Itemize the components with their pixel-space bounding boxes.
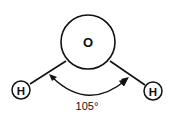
bond-angle-arc xyxy=(52,77,126,95)
water-molecule-diagram: O H H 105° xyxy=(0,0,173,116)
oxygen-label: O xyxy=(83,35,93,50)
bond-o-h-left xyxy=(30,61,66,84)
oxygen-atom: O xyxy=(61,15,115,69)
hydrogen-atom-left: H xyxy=(12,81,30,99)
hydrogen-left-label: H xyxy=(17,85,25,97)
hydrogen-right-label: H xyxy=(149,86,157,98)
hydrogen-atom-right: H xyxy=(144,82,162,100)
bond-angle-label: 105° xyxy=(76,100,99,112)
bond-o-h-right xyxy=(110,61,145,85)
